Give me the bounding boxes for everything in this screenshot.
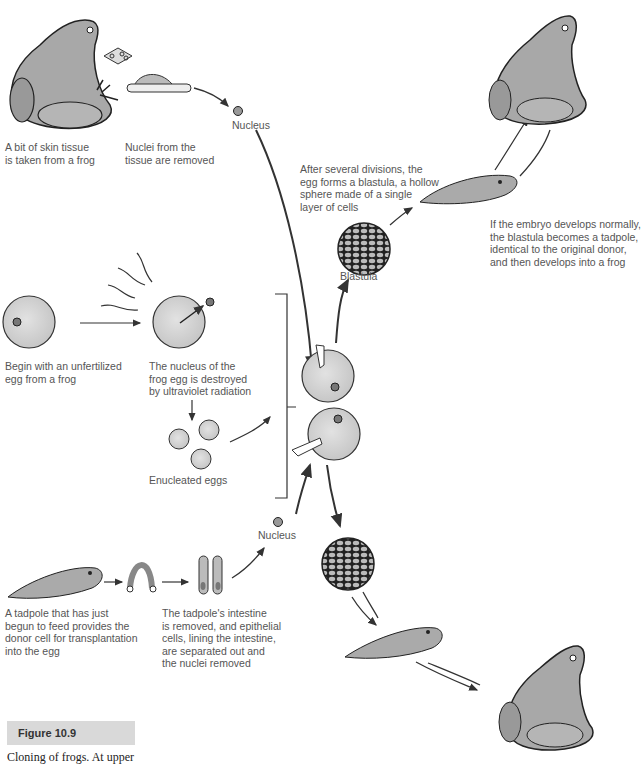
label-nucleus-top: Nucleus xyxy=(232,119,270,132)
tadpole-donor-icon xyxy=(8,568,102,599)
adult-frog-donor-icon xyxy=(10,20,118,128)
label-nucleus-destroyed: The nucleus of the frog egg is destroyed… xyxy=(149,360,251,398)
label-skin-tissue: A bit of skin tissue is taken from a fro… xyxy=(5,141,95,166)
nucleus-bottom-icon xyxy=(274,518,283,527)
label-nucleus-bottom: Nucleus xyxy=(258,529,296,542)
label-tadpole-donor: A tadpole that has just begun to feed pr… xyxy=(5,607,138,657)
figure-caption: Cloning of frogs. At upper xyxy=(7,750,134,765)
label-intestine-removed: The tadpole's intestine is removed, and … xyxy=(162,607,281,670)
nucleus-icon xyxy=(234,107,243,116)
skin-tissue-icon xyxy=(104,48,191,92)
tadpole-bottom-icon xyxy=(345,628,442,659)
bracket xyxy=(275,294,296,498)
label-nuclei-removed: Nuclei from the tissue are removed xyxy=(125,141,214,166)
label-embryo-develops: If the embryo develops normally, the bla… xyxy=(490,218,641,268)
blastula-icon xyxy=(338,223,390,275)
intestine-cells-icon xyxy=(199,556,222,594)
intestine-icon xyxy=(130,565,152,588)
figure-number: Figure 10.9 xyxy=(18,727,76,739)
injected-egg-top-icon xyxy=(302,350,354,402)
blastula-bottom-icon xyxy=(322,538,374,590)
injected-egg-bottom-icon xyxy=(308,408,360,460)
label-blastula-forms: After several divisions, the egg forms a… xyxy=(300,163,439,213)
label-blastula: Blastula xyxy=(340,270,377,283)
irradiated-egg-icon xyxy=(153,296,205,348)
label-enucleated-eggs: Enucleated eggs xyxy=(149,474,227,487)
unfertilized-egg-icon xyxy=(3,296,55,348)
label-unfertilized-egg: Begin with an unfertilized egg from a fr… xyxy=(5,360,122,385)
adult-frog-clone-bottom-icon xyxy=(499,646,593,750)
uv-radiation-icon xyxy=(101,253,152,310)
enucleated-eggs-icon xyxy=(169,420,219,469)
adult-frog-clone-top-icon xyxy=(489,16,586,124)
